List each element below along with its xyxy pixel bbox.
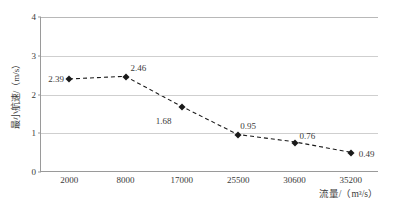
x-axis-tick-label: 8000 (117, 176, 135, 185)
data-point-label: 0.95 (240, 122, 256, 131)
y-axis-tick-mark (38, 17, 41, 18)
x-axis-title: 流量/（m³/s） (0, 190, 378, 200)
x-axis-tick-label: 2000 (60, 176, 78, 185)
x-axis-tick-label: 17000 (171, 176, 194, 185)
y-axis-tick-label: 4 (32, 13, 37, 22)
gridline (41, 133, 378, 134)
data-point-label: 2.39 (48, 75, 64, 84)
y-axis-tick-label: 0 (32, 168, 37, 177)
gridline (41, 17, 378, 18)
data-point-label: 0.49 (359, 150, 375, 159)
x-axis-tick-label: 30600 (283, 176, 306, 185)
gridline (41, 56, 378, 57)
y-axis-title-text: 最小航速/（m/s） (13, 60, 22, 130)
data-point-label: 0.76 (300, 132, 316, 141)
y-axis-tick-label: 2 (32, 90, 37, 99)
plot-area: 0123420008000170002550030600352002.392.4… (40, 17, 378, 172)
y-axis-tick-mark (38, 133, 41, 134)
x-axis-tick-label: 25500 (227, 176, 250, 185)
gridline (41, 95, 378, 96)
y-axis-tick-label: 1 (32, 129, 37, 138)
y-axis-tick-label: 3 (32, 51, 37, 60)
y-axis-tick-mark (38, 55, 41, 56)
y-axis-title: 最小航速/（m/s） (9, 17, 25, 172)
chart-figure: 最小航速/（m/s） 01234200080001700025500306003… (0, 0, 395, 209)
data-point-label: 2.46 (131, 64, 147, 73)
x-axis-title-text: 流量/（m³/s） (319, 189, 378, 199)
data-point-label: 1.68 (156, 117, 172, 126)
y-axis-tick-mark (38, 94, 41, 95)
y-axis-tick-mark (38, 172, 41, 173)
x-axis-tick-label: 35200 (340, 176, 363, 185)
